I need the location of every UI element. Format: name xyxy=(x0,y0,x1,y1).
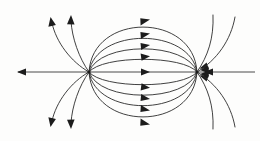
arrowhead-axis-left xyxy=(17,68,26,75)
fieldline-outer-upper-right-outer xyxy=(197,17,235,72)
fieldline-outer-lower-right-inner xyxy=(197,72,213,129)
fieldline-outer-lower-right-outer xyxy=(197,72,235,127)
arrowhead-outer-upper-left-outer xyxy=(48,17,56,27)
arrowhead-outer-upper-left-inner xyxy=(67,15,75,24)
fieldline-outer-upper-right-inner xyxy=(197,15,213,72)
arrowhead-outer-lower-left-inner xyxy=(67,120,75,129)
dipole-field-diagram: Electric field lines of a dipole xyxy=(0,0,260,141)
fieldline-outer-upper-left-inner xyxy=(71,21,89,72)
inner-arcs-lower-group xyxy=(89,72,197,126)
fieldline-outer-lower-left-inner xyxy=(71,72,89,123)
sink-pole-right-marker xyxy=(195,70,198,73)
outer-curves-lower-right-group xyxy=(197,71,235,130)
inner-arcs-upper-group xyxy=(89,18,197,72)
fieldline-outer-lower-left-outer xyxy=(52,72,89,121)
outer-curves-upper-left-group xyxy=(48,15,89,72)
fieldline-inner-arc-up-2 xyxy=(89,49,197,72)
arrowhead-outer-lower-left-outer xyxy=(48,117,56,127)
arrowhead-inner-arc-up-4 xyxy=(140,18,150,25)
field-line-canvas xyxy=(0,0,260,141)
arrowhead-inner-arc-down-4 xyxy=(140,119,150,126)
fieldline-inner-arc-down-2 xyxy=(89,72,197,95)
outer-curves-lower-left-group xyxy=(48,72,89,129)
outer-curves-upper-right-group xyxy=(197,15,235,74)
dipole-axis-group xyxy=(17,68,255,75)
source-pole-left-marker xyxy=(87,70,90,73)
fieldline-outer-upper-left-outer xyxy=(52,23,89,72)
arrowhead-axis-center xyxy=(141,68,150,75)
